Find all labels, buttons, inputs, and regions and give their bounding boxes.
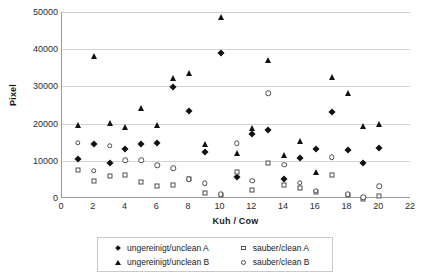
- data-point: [312, 145, 319, 152]
- data-point: [106, 159, 113, 166]
- gridline: [62, 86, 410, 87]
- open-circle-icon: [238, 260, 250, 265]
- data-point: [234, 169, 239, 174]
- data-point: [234, 150, 240, 156]
- data-point: [329, 154, 335, 160]
- y-tick-label: 20000: [16, 120, 58, 129]
- data-point: [217, 49, 224, 56]
- data-point: [297, 138, 303, 144]
- data-point: [218, 14, 224, 20]
- data-point: [313, 188, 319, 194]
- data-point: [345, 90, 351, 96]
- y-tick-label: 50000: [16, 8, 58, 17]
- data-point: [345, 192, 351, 198]
- data-point: [170, 75, 176, 81]
- gridline: [62, 161, 410, 162]
- y-tick-label: 30000: [16, 82, 58, 91]
- data-point: [107, 120, 113, 126]
- data-point: [122, 124, 128, 130]
- data-point: [170, 165, 176, 171]
- x-tick-label: 22: [398, 201, 422, 212]
- y-tick-label: 40000: [16, 45, 58, 54]
- data-point: [154, 163, 160, 169]
- data-point: [281, 175, 288, 182]
- data-point: [376, 145, 383, 152]
- data-point: [376, 121, 382, 127]
- data-point: [218, 192, 224, 198]
- x-tick-label: 6: [144, 201, 168, 212]
- legend-item-unclean-b: ungereinigt/unclean B: [98, 257, 232, 267]
- data-point: [123, 157, 129, 163]
- gridline: [62, 49, 410, 50]
- open-square-icon: [238, 246, 250, 251]
- x-tick-label: 10: [208, 201, 232, 212]
- legend-item-clean-b: sauber/clean B: [232, 257, 332, 267]
- data-point: [186, 177, 192, 183]
- data-point: [75, 140, 81, 146]
- data-point: [75, 122, 81, 128]
- scatter-chart: Pixel 01000020000300004000050000 0246810…: [0, 0, 423, 280]
- data-point: [186, 70, 192, 76]
- data-point: [171, 182, 176, 187]
- data-point: [281, 162, 287, 168]
- data-point: [155, 184, 160, 189]
- gridline: [62, 12, 410, 13]
- x-axis-tick-labels: 0246810121416182022: [61, 201, 410, 215]
- data-point: [329, 172, 334, 177]
- data-point: [138, 105, 144, 111]
- data-point: [377, 184, 383, 190]
- data-point: [265, 91, 271, 97]
- x-tick-label: 0: [49, 201, 73, 212]
- data-point: [265, 126, 272, 133]
- x-tick-label: 2: [81, 201, 105, 212]
- legend-label: ungereinigt/unclean B: [124, 257, 209, 267]
- data-point: [123, 172, 128, 177]
- data-point: [344, 146, 351, 153]
- data-point: [154, 122, 160, 128]
- legend-row: ungereinigt/unclean B sauber/clean B: [98, 255, 332, 269]
- data-point: [91, 178, 96, 183]
- data-point: [249, 125, 255, 131]
- data-point: [138, 140, 145, 147]
- data-point: [328, 109, 335, 116]
- data-point: [122, 145, 129, 152]
- data-point: [329, 74, 335, 80]
- data-point: [169, 84, 176, 91]
- data-point: [377, 193, 382, 198]
- x-tick-label: 4: [112, 201, 136, 212]
- gridline: [62, 124, 410, 125]
- data-point: [297, 186, 302, 191]
- data-point: [139, 158, 145, 164]
- data-point: [185, 107, 192, 114]
- data-point: [249, 131, 256, 138]
- filled-diamond-icon: [112, 246, 124, 250]
- data-point: [250, 187, 255, 192]
- data-point: [201, 149, 208, 156]
- x-tick-label: 14: [271, 201, 295, 212]
- data-point: [90, 141, 97, 148]
- y-tick-label: 10000: [16, 157, 58, 166]
- data-point: [361, 195, 367, 201]
- data-point: [107, 143, 113, 149]
- data-point: [281, 152, 287, 158]
- data-point: [265, 57, 271, 63]
- data-point: [313, 169, 319, 175]
- data-point: [297, 180, 303, 186]
- legend-row: ungereinigt/unclean A sauber/clean A: [98, 241, 332, 255]
- data-point: [266, 161, 271, 166]
- data-point: [91, 168, 97, 174]
- plot-area: [61, 12, 410, 198]
- data-point: [202, 180, 208, 186]
- x-axis-title: Kuh / Cow: [61, 216, 410, 226]
- legend-item-clean-a: sauber/clean A: [232, 243, 332, 253]
- data-point: [75, 168, 80, 173]
- legend-label: sauber/clean B: [250, 257, 310, 267]
- data-point: [234, 141, 240, 147]
- legend-item-unclean-a: ungereinigt/unclean A: [98, 243, 232, 253]
- data-point: [139, 180, 144, 185]
- legend-label: ungereinigt/unclean A: [124, 243, 209, 253]
- data-point: [202, 191, 207, 196]
- chart-legend: ungereinigt/unclean A sauber/clean A ung…: [97, 237, 333, 272]
- x-tick-label: 8: [176, 201, 200, 212]
- x-tick-label: 18: [335, 201, 359, 212]
